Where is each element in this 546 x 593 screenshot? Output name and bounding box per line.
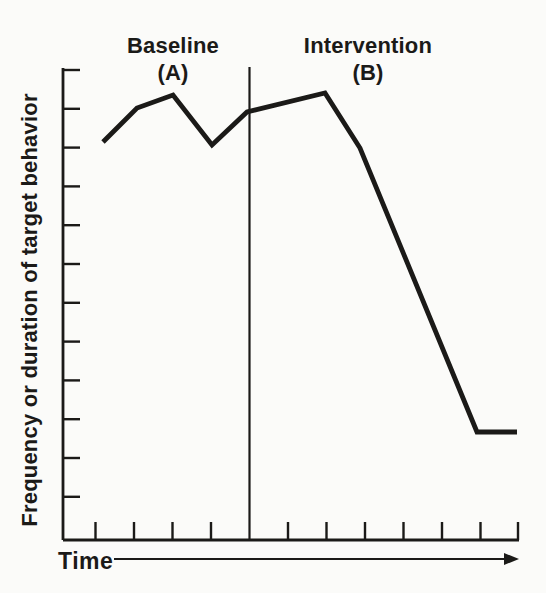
x-axis-ticks-group (96, 522, 519, 540)
phase-label-baseline: Baseline (A) (113, 32, 233, 86)
behavior-line-group (103, 93, 517, 432)
figure-canvas (0, 0, 546, 593)
ab-design-figure: Baseline (A) Intervention (B) Frequency … (0, 0, 546, 593)
y-axis-ticks-group (63, 70, 80, 497)
x-axis-label: Time (58, 548, 113, 575)
time-arrow-group (114, 553, 519, 565)
y-axis-label: Frequency or duration of target behavior (17, 93, 43, 526)
intervention-letter: (B) (301, 59, 435, 86)
phase-label-intervention: Intervention (B) (301, 32, 435, 86)
baseline-letter: (A) (113, 59, 233, 86)
baseline-label: Baseline (113, 32, 233, 59)
intervention-label: Intervention (301, 32, 435, 59)
